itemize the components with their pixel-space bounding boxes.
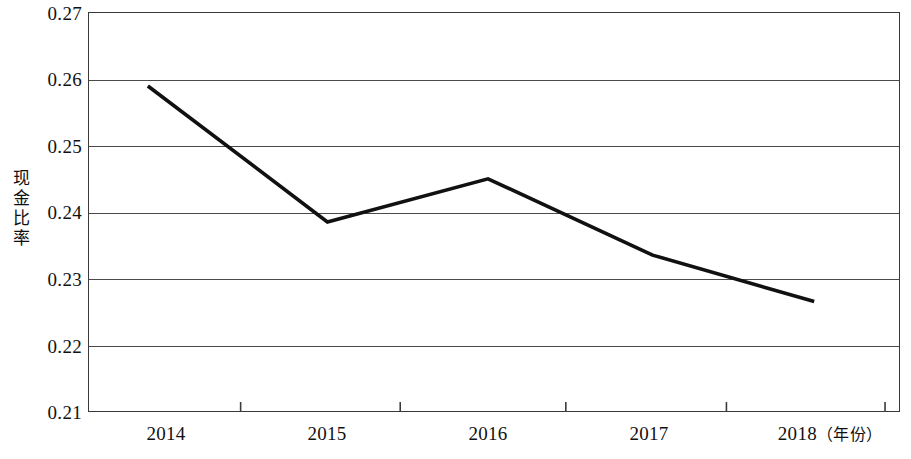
x-axis-tick-marks (241, 402, 885, 411)
y-tick-label-0: 0.27 (8, 4, 82, 23)
x-tick-label-2016: 2016 (468, 424, 507, 444)
x-tick-label-2015: 2015 (307, 424, 346, 444)
y-tick-label-2: 0.25 (8, 137, 82, 156)
x-tick-label-2018: 2018（年份） (778, 424, 882, 445)
plot-area (88, 12, 900, 412)
y-tick-label-4: 0.23 (8, 270, 82, 289)
x-axis-unit-label: （年份） (817, 425, 882, 444)
series-polyline-cash-ratio (148, 86, 814, 302)
x-tick-label-2014: 2014 (146, 424, 185, 444)
y-tick-label-1: 0.26 (8, 70, 82, 89)
y-tick-label-5: 0.22 (8, 337, 82, 356)
series-line-chart (89, 13, 899, 411)
x-tick-label-2018-year: 2018 (778, 423, 817, 444)
chart-figure: 现 金 比 率 0.27 0.26 0.25 0.24 0.23 0.22 0.… (0, 0, 911, 459)
y-tick-label-6: 0.21 (8, 403, 82, 422)
x-tick-label-2017: 2017 (629, 424, 668, 444)
y-tick-label-3: 0.24 (8, 203, 82, 222)
y-axis-tick-labels: 0.27 0.26 0.25 0.24 0.23 0.22 0.21 (0, 0, 82, 459)
